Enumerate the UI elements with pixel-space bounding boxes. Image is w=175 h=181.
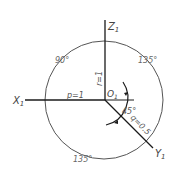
angle-label-135-bottom: 135° <box>73 155 92 164</box>
q-coefficient: q=0.5 <box>129 113 153 137</box>
x-axis-label: X1 <box>12 95 24 108</box>
p-coefficient: p=1 <box>66 91 84 100</box>
angle-label-45: 45° <box>122 107 136 116</box>
oblique-axonometric-diagram: Z1 X1 Y1 O1 p=1 r=1 q=0.5 90° 135° 135° … <box>0 0 175 181</box>
angle-label-135-upper: 135° <box>138 56 157 65</box>
r-coefficient: r=1 <box>95 71 104 86</box>
origin-label: O1 <box>107 89 118 100</box>
y-axis-label: Y1 <box>155 148 166 161</box>
z-axis-label: Z1 <box>107 21 119 34</box>
angle-label-90: 90° <box>55 56 69 65</box>
